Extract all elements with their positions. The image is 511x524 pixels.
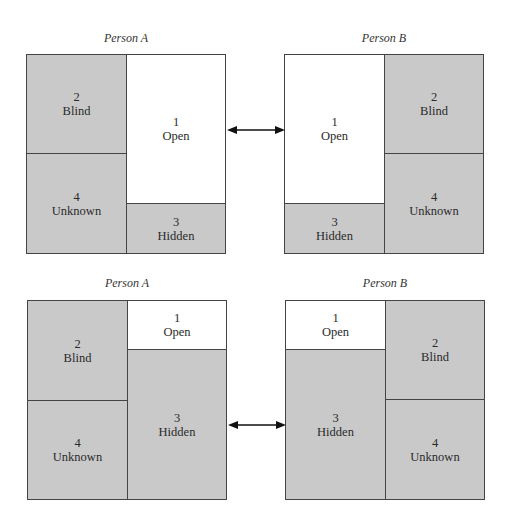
pane-label: Unknown: [52, 204, 101, 218]
pane-label: Hidden: [159, 425, 196, 439]
pane-label: Unknown: [409, 204, 458, 218]
pane-number: 3: [173, 215, 179, 229]
pane-number: 1: [332, 311, 338, 325]
pane-label: Open: [162, 129, 189, 143]
pane-label: Hidden: [158, 229, 195, 243]
pane-unknown: 4 Unknown: [385, 154, 483, 253]
pane-label: Unknown: [53, 450, 102, 464]
bottom-person-a-title: Person A: [27, 276, 227, 291]
pane-number: 3: [174, 411, 180, 425]
bottom-person-a-johari-window: 2 Blind 4 Unknown 1 Open 3 Hidden: [27, 300, 227, 500]
pane-open: 1 Open: [285, 55, 385, 204]
pane-number: 4: [74, 436, 80, 450]
pane-label: Blind: [420, 104, 448, 118]
pane-open: 1 Open: [128, 301, 226, 350]
pane-blind: 2 Blind: [386, 301, 484, 400]
top-person-a-johari-window: 2 Blind 4 Unknown 1 Open 3 Hidden: [26, 54, 226, 254]
pane-blind: 2 Blind: [27, 55, 127, 154]
bottom-person-b-title: Person B: [285, 276, 485, 291]
pane-label: Open: [322, 325, 349, 339]
pane-number: 3: [332, 411, 338, 425]
pane-open: 1 Open: [127, 55, 225, 204]
pane-label: Blind: [63, 104, 91, 118]
pane-label: Hidden: [317, 425, 354, 439]
pane-unknown: 4 Unknown: [28, 401, 128, 499]
top-person-b-title: Person B: [284, 31, 484, 46]
pane-label: Hidden: [316, 229, 353, 243]
pane-label: Blind: [421, 350, 449, 364]
pane-label: Unknown: [410, 450, 459, 464]
pane-hidden: 3 Hidden: [128, 350, 226, 499]
pane-number: 2: [74, 337, 80, 351]
bottom-person-b-johari-window: 1 Open 3 Hidden 2 Blind 4 Unknown: [285, 300, 485, 500]
double-arrow-icon: [227, 418, 287, 432]
pane-unknown: 4 Unknown: [27, 154, 127, 253]
pane-hidden: 3 Hidden: [286, 350, 386, 499]
top-person-a-title: Person A: [26, 31, 226, 46]
pane-label: Blind: [64, 351, 92, 365]
pane-number: 2: [432, 336, 438, 350]
pane-open: 1 Open: [286, 301, 386, 350]
pane-unknown: 4 Unknown: [386, 400, 484, 499]
pane-hidden: 3 Hidden: [127, 204, 225, 253]
pane-label: Open: [321, 129, 348, 143]
top-person-b-johari-window: 1 Open 3 Hidden 2 Blind 4 Unknown: [284, 54, 484, 254]
pane-number: 1: [174, 311, 180, 325]
pane-blind: 2 Blind: [385, 55, 483, 154]
pane-number: 3: [331, 215, 337, 229]
pane-number: 4: [431, 190, 437, 204]
pane-number: 2: [431, 90, 437, 104]
pane-label: Open: [163, 325, 190, 339]
pane-number: 4: [432, 436, 438, 450]
pane-number: 4: [73, 190, 79, 204]
pane-number: 2: [73, 90, 79, 104]
pane-hidden: 3 Hidden: [285, 204, 385, 253]
pane-number: 1: [331, 115, 337, 129]
pane-number: 1: [173, 115, 179, 129]
pane-blind: 2 Blind: [28, 301, 128, 401]
double-arrow-icon: [226, 123, 286, 137]
